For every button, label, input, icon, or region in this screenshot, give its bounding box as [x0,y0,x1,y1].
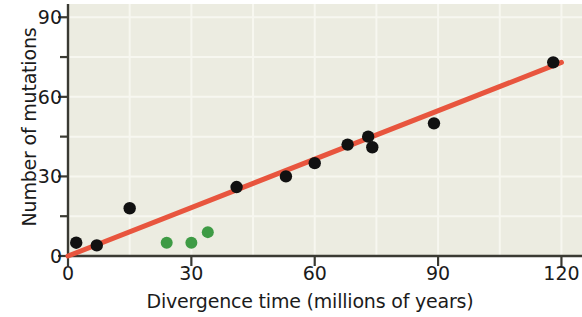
x-axis-title: Divergence time (millions of years) [60,290,560,312]
x-axis-tick-label-group: 0306090120 [0,0,582,317]
x-axis-tick-label: 60 [285,262,345,284]
x-axis-tick-label: 120 [531,262,582,284]
scatter-plot-figure: 0306090 0306090120 Number of mutations D… [0,0,582,317]
y-axis-title: Number of mutations [18,2,40,252]
x-axis-tick-label: 90 [408,262,468,284]
x-axis-tick-label: 30 [161,262,221,284]
x-axis-tick-label: 0 [38,262,98,284]
